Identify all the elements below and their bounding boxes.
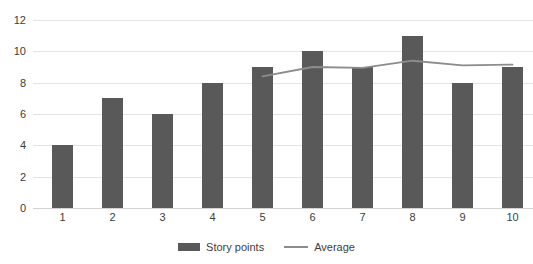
y-axis-tick-label: 6 (20, 109, 26, 120)
x-axis-tick-labels: 12345678910 (33, 211, 533, 229)
legend-item-label: Story points (206, 241, 264, 253)
x-axis-tick-label: 9 (459, 211, 465, 223)
legend-item-average: Average (284, 241, 355, 253)
x-axis-tick-label: 5 (259, 211, 265, 223)
y-axis-tick-label: 4 (20, 140, 26, 151)
x-axis-tick-label: 3 (159, 211, 165, 223)
y-axis-tick-label: 8 (20, 77, 26, 88)
plot-area: 024681012 (33, 20, 533, 208)
legend-item-label: Average (314, 241, 355, 253)
y-axis-tick-label: 12 (14, 15, 26, 26)
x-axis-tick-label: 10 (506, 211, 518, 223)
x-axis-tick-label: 6 (309, 211, 315, 223)
chart-legend: Story points Average (0, 238, 533, 256)
y-axis-tick-label: 2 (20, 171, 26, 182)
story-points-chart: 024681012 12345678910 Story points Avera… (0, 0, 533, 264)
bar-swatch-icon (178, 243, 200, 251)
line-swatch-icon (284, 246, 308, 248)
gridline (33, 208, 533, 209)
line-series-average (33, 20, 533, 208)
x-axis-tick-label: 4 (209, 211, 215, 223)
x-axis-tick-label: 2 (109, 211, 115, 223)
y-axis-tick-label: 0 (20, 203, 26, 214)
x-axis-tick-label: 8 (409, 211, 415, 223)
x-axis-tick-label: 7 (359, 211, 365, 223)
x-axis-tick-label: 1 (59, 211, 65, 223)
average-trend-line (263, 61, 513, 77)
legend-item-story-points: Story points (178, 241, 264, 253)
y-axis-tick-label: 10 (14, 46, 26, 57)
